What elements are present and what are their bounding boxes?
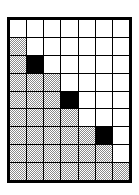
matrix-cell-r4-c6[interactable]: [96, 74, 112, 91]
matrix-cell-r9-c4[interactable]: [61, 163, 77, 180]
matrix-cell-r9-c5[interactable]: [79, 163, 95, 180]
matrix-cell-r7-c6[interactable]: [96, 127, 112, 144]
matrix-cell-r6-c1[interactable]: [10, 109, 26, 126]
matrix-figure: [0, 0, 139, 195]
matrix-cell-r4-c2[interactable]: [27, 74, 43, 91]
matrix-cell-r9-c6[interactable]: [96, 163, 112, 180]
matrix-cell-r6-c6[interactable]: [96, 109, 112, 126]
matrix-cell-r2-c3[interactable]: [44, 38, 60, 55]
matrix-cell-r7-c1[interactable]: [10, 127, 26, 144]
matrix-cell-r1-c4[interactable]: [61, 20, 77, 37]
matrix-cell-r5-c5[interactable]: [79, 92, 95, 109]
matrix-grid: [10, 20, 129, 180]
matrix-cell-r5-c2[interactable]: [27, 92, 43, 109]
matrix-cell-r8-c4[interactable]: [61, 145, 77, 162]
matrix-grid-frame: [7, 17, 132, 183]
matrix-cell-r6-c3[interactable]: [44, 109, 60, 126]
matrix-cell-r7-c5[interactable]: [79, 127, 95, 144]
matrix-cell-r9-c2[interactable]: [27, 163, 43, 180]
matrix-cell-r2-c2[interactable]: [27, 38, 43, 55]
matrix-cell-r1-c5[interactable]: [79, 20, 95, 37]
matrix-cell-r2-c5[interactable]: [79, 38, 95, 55]
matrix-cell-r1-c1[interactable]: [10, 20, 26, 37]
matrix-cell-r2-c7[interactable]: [113, 38, 129, 55]
matrix-cell-r3-c1[interactable]: [10, 56, 26, 73]
matrix-cell-r6-c2[interactable]: [27, 109, 43, 126]
matrix-cell-r3-c2[interactable]: [27, 56, 43, 73]
matrix-cell-r3-c5[interactable]: [79, 56, 95, 73]
matrix-cell-r5-c4[interactable]: [61, 92, 77, 109]
matrix-cell-r4-c3[interactable]: [44, 74, 60, 91]
matrix-cell-r6-c4[interactable]: [61, 109, 77, 126]
matrix-cell-r4-c4[interactable]: [61, 74, 77, 91]
matrix-cell-r8-c2[interactable]: [27, 145, 43, 162]
matrix-cell-r9-c1[interactable]: [10, 163, 26, 180]
matrix-cell-r1-c3[interactable]: [44, 20, 60, 37]
matrix-cell-r6-c5[interactable]: [79, 109, 95, 126]
matrix-cell-r1-c6[interactable]: [96, 20, 112, 37]
matrix-cell-r3-c4[interactable]: [61, 56, 77, 73]
matrix-cell-r5-c1[interactable]: [10, 92, 26, 109]
matrix-cell-r8-c6[interactable]: [96, 145, 112, 162]
matrix-cell-r4-c5[interactable]: [79, 74, 95, 91]
matrix-cell-r5-c3[interactable]: [44, 92, 60, 109]
matrix-cell-r2-c6[interactable]: [96, 38, 112, 55]
matrix-cell-r4-c1[interactable]: [10, 74, 26, 91]
matrix-cell-r8-c5[interactable]: [79, 145, 95, 162]
matrix-cell-r3-c7[interactable]: [113, 56, 129, 73]
matrix-cell-r7-c4[interactable]: [61, 127, 77, 144]
matrix-cell-r2-c1[interactable]: [10, 38, 26, 55]
matrix-cell-r7-c2[interactable]: [27, 127, 43, 144]
matrix-cell-r7-c3[interactable]: [44, 127, 60, 144]
matrix-cell-r3-c6[interactable]: [96, 56, 112, 73]
matrix-cell-r8-c7[interactable]: [113, 145, 129, 162]
matrix-cell-r5-c7[interactable]: [113, 92, 129, 109]
matrix-cell-r7-c7[interactable]: [113, 127, 129, 144]
matrix-cell-r5-c6[interactable]: [96, 92, 112, 109]
matrix-cell-r8-c3[interactable]: [44, 145, 60, 162]
matrix-cell-r9-c7[interactable]: [113, 163, 129, 180]
matrix-cell-r4-c7[interactable]: [113, 74, 129, 91]
matrix-cell-r8-c1[interactable]: [10, 145, 26, 162]
matrix-cell-r1-c2[interactable]: [27, 20, 43, 37]
matrix-cell-r6-c7[interactable]: [113, 109, 129, 126]
matrix-cell-r1-c7[interactable]: [113, 20, 129, 37]
matrix-cell-r3-c3[interactable]: [44, 56, 60, 73]
matrix-cell-r9-c3[interactable]: [44, 163, 60, 180]
matrix-cell-r2-c4[interactable]: [61, 38, 77, 55]
